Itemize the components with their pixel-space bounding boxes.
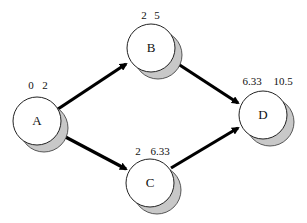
node-c-late-time: 6.33 (150, 145, 170, 157)
edge-a-c (58, 133, 126, 169)
node-a: A 0 2 (13, 79, 68, 152)
edge-c-d (171, 128, 238, 168)
node-c-label: C (146, 175, 155, 190)
node-d-early-time: 6.33 (242, 75, 262, 87)
node-c-early-time: 2 (135, 145, 141, 157)
node-a-early-time: 0 (28, 79, 34, 91)
node-b-label: B (147, 40, 156, 55)
node-d: D 6.33 10.5 (239, 75, 294, 146)
node-a-label: A (32, 113, 42, 128)
node-b-late-time: 5 (154, 9, 160, 21)
node-d-label: D (258, 107, 267, 122)
edge-a-b (58, 64, 126, 109)
network-diagram: A 0 2 B 2 5 C 2 6.33 D 6.33 10.5 (0, 0, 307, 223)
node-b-early-time: 2 (141, 9, 147, 21)
node-a-late-time: 2 (42, 79, 48, 91)
node-d-late-time: 10.5 (273, 75, 293, 87)
node-c: C 2 6.33 (126, 145, 181, 214)
node-b: B 2 5 (127, 9, 182, 79)
edge-b-d (172, 60, 238, 103)
